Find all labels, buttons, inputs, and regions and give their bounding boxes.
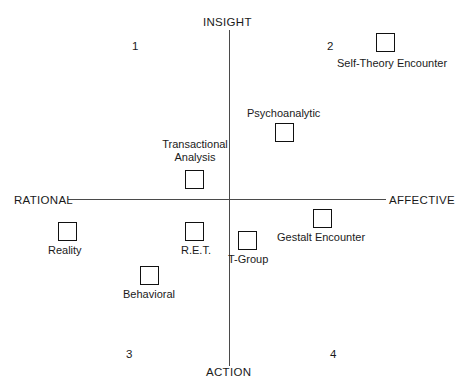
item-label-t-group: T-Group	[228, 253, 268, 266]
marker-psychoanalytic[interactable]	[275, 123, 294, 142]
axis-label-insight: INSIGHT	[203, 16, 252, 28]
axis-label-action: ACTION	[206, 366, 251, 378]
marker-behavioral[interactable]	[140, 266, 159, 285]
marker-ret[interactable]	[185, 222, 204, 241]
item-label-transactional-analysis-line2: Analysis	[155, 151, 235, 164]
quadrant-number-1: 1	[132, 40, 138, 52]
quadrant-number-3: 3	[126, 348, 132, 360]
horizontal-axis-line	[68, 199, 386, 200]
item-label-behavioral: Behavioral	[123, 288, 175, 301]
item-label-psychoanalytic: Psychoanalytic	[247, 107, 320, 120]
marker-gestalt-encounter[interactable]	[313, 209, 332, 228]
axis-label-affective: AFFECTIVE	[389, 194, 455, 206]
quadrant-number-2: 2	[327, 40, 333, 52]
item-label-gestalt-encounter: Gestalt Encounter	[277, 231, 365, 244]
concept-map-diagram: INSIGHT ACTION RATIONAL AFFECTIVE 1 2 3 …	[0, 0, 459, 391]
marker-self-theory-encounter[interactable]	[376, 33, 395, 52]
marker-reality[interactable]	[58, 222, 77, 241]
axis-label-rational: RATIONAL	[14, 194, 73, 206]
item-label-ret: R.E.T.	[181, 244, 211, 257]
vertical-axis-line	[229, 30, 230, 366]
item-label-transactional-analysis-line1: Transactional	[155, 138, 235, 151]
item-label-reality: Reality	[48, 244, 82, 257]
item-label-self-theory-encounter: Self-Theory Encounter	[337, 57, 447, 70]
marker-transactional-analysis[interactable]	[185, 170, 204, 189]
quadrant-number-4: 4	[330, 348, 336, 360]
marker-t-group[interactable]	[238, 231, 257, 250]
